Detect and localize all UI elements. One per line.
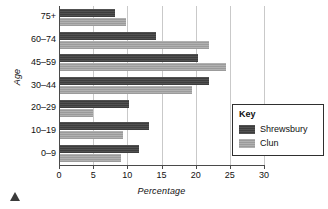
x-tick-label-10: 10 — [115, 170, 139, 180]
bar-clun-10_19 — [59, 131, 123, 139]
x-tick-25 — [230, 165, 231, 169]
x-tick-20 — [196, 165, 197, 169]
bar-clun-0_9 — [59, 154, 121, 162]
bar-shrewsbury-30_44 — [59, 77, 209, 85]
x-tick-label-15: 15 — [150, 170, 174, 180]
bar-shrewsbury-45_59 — [59, 54, 198, 62]
legend-label-clun: Clun — [260, 138, 279, 148]
x-tick-label-30: 30 — [252, 170, 276, 180]
y-category-label-10_19: 10–19 — [0, 125, 56, 135]
bar-shrewsbury-75+ — [59, 9, 115, 17]
x-tick-5 — [93, 165, 94, 169]
legend-swatch-clun — [239, 139, 255, 148]
bar-clun-45_59 — [59, 63, 226, 71]
legend-box: Key Shrewsbury Clun — [232, 104, 324, 156]
x-tick-0 — [59, 165, 60, 169]
x-tick-label-5: 5 — [81, 170, 105, 180]
bar-clun-30_44 — [59, 86, 192, 94]
legend-title: Key — [239, 109, 323, 119]
bar-clun-60_74 — [59, 41, 209, 49]
x-tick-label-20: 20 — [184, 170, 208, 180]
bar-shrewsbury-10_19 — [59, 122, 149, 130]
y-category-label-20_29: 20–29 — [0, 102, 56, 112]
y-category-label-0_9: 0–9 — [0, 148, 56, 158]
y-category-label-45_59: 45–59 — [0, 57, 56, 67]
legend-item-shrewsbury: Shrewsbury — [239, 122, 323, 136]
gridline-20 — [196, 6, 197, 165]
x-tick-30 — [264, 165, 265, 169]
bar-chart: Age 051015202530 0–910–1920–2930–4445–59… — [0, 0, 328, 209]
bar-shrewsbury-20_29 — [59, 100, 129, 108]
y-axis-line — [59, 6, 60, 166]
legend-item-clun: Clun — [239, 136, 323, 150]
x-tick-15 — [162, 165, 163, 169]
bar-clun-20_29 — [59, 109, 93, 117]
gridline-25 — [230, 6, 231, 165]
bar-shrewsbury-0_9 — [59, 145, 139, 153]
x-tick-label-25: 25 — [218, 170, 242, 180]
y-category-label-75+: 75+ — [0, 11, 56, 21]
y-category-label-60_74: 60–74 — [0, 34, 56, 44]
legend-label-shrewsbury: Shrewsbury — [260, 124, 308, 134]
legend-swatch-shrewsbury — [239, 125, 255, 134]
bar-clun-75+ — [59, 18, 126, 26]
y-category-label-30_44: 30–44 — [0, 80, 56, 90]
triangle-marker-icon — [10, 192, 20, 201]
x-axis-title: Percentage — [59, 186, 264, 196]
bar-shrewsbury-60_74 — [59, 32, 156, 40]
x-tick-10 — [127, 165, 128, 169]
x-tick-label-0: 0 — [47, 170, 71, 180]
